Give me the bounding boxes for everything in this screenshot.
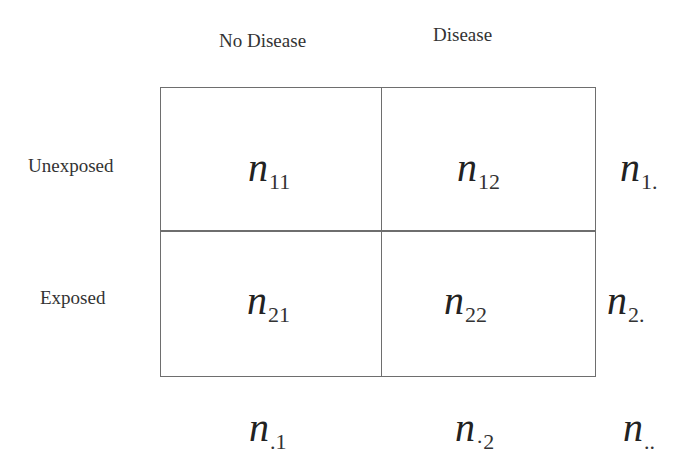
grid-horizontal-divider [161, 230, 595, 232]
cell-n21: n21 [247, 281, 290, 321]
cell-subscript: 21 [268, 302, 290, 327]
grid-vertical-divider [381, 88, 382, 376]
grand-total: n.. [623, 408, 655, 448]
row-header-unexposed: Unexposed [28, 155, 113, 177]
total-subscript: .. [644, 429, 655, 454]
cell-symbol: n [248, 145, 268, 190]
column-header-no-disease: No Disease [219, 30, 306, 52]
column-total-1: n.1 [249, 408, 287, 448]
cell-subscript: 11 [269, 169, 290, 194]
cell-subscript: 22 [465, 302, 487, 327]
cell-symbol: n [444, 278, 464, 323]
total-symbol: n [249, 405, 269, 450]
total-subscript: 1. [641, 169, 658, 194]
cell-n11: n11 [248, 148, 290, 188]
cell-symbol: n [247, 278, 267, 323]
cell-subscript: 12 [478, 169, 500, 194]
row-total-2: n2. [607, 281, 645, 321]
total-subscript: .1 [270, 429, 287, 454]
total-subscript: 2. [628, 302, 645, 327]
total-symbol: n [623, 405, 643, 450]
cell-n12: n12 [457, 148, 500, 188]
total-subscript: ·2 [476, 429, 494, 454]
total-symbol: n [455, 405, 475, 450]
column-header-disease: Disease [433, 24, 492, 46]
cell-n22: n22 [444, 281, 487, 321]
row-total-1: n1. [620, 148, 658, 188]
total-symbol: n [607, 278, 627, 323]
contingency-table-grid [160, 87, 596, 377]
row-header-exposed: Exposed [40, 287, 105, 309]
total-symbol: n [620, 145, 640, 190]
column-total-2: n·2 [455, 408, 494, 448]
cell-symbol: n [457, 145, 477, 190]
